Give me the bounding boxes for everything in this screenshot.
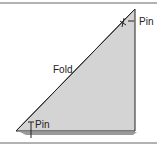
pin-bottom-label: Pin bbox=[35, 119, 49, 130]
fold-diagram: Pin Fold Pin bbox=[0, 0, 157, 147]
pin-top-label: Pin bbox=[139, 16, 153, 27]
fold-label: Fold bbox=[53, 64, 72, 75]
fabric-shadow-layer bbox=[20, 132, 137, 135]
